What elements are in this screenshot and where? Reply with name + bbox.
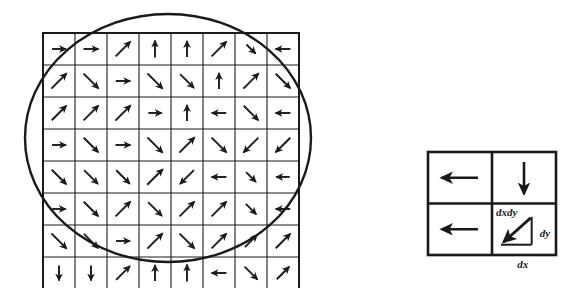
figure-root: dxdy dy dx [0, 0, 582, 288]
dxdy-detail-panel [428, 152, 556, 255]
vector-field-grid [43, 33, 299, 288]
label-dx: dx [517, 258, 529, 270]
figure-canvas: dxdy dy dx [0, 0, 582, 288]
label-dxdy: dxdy [496, 206, 518, 218]
label-dy: dy [540, 227, 551, 239]
